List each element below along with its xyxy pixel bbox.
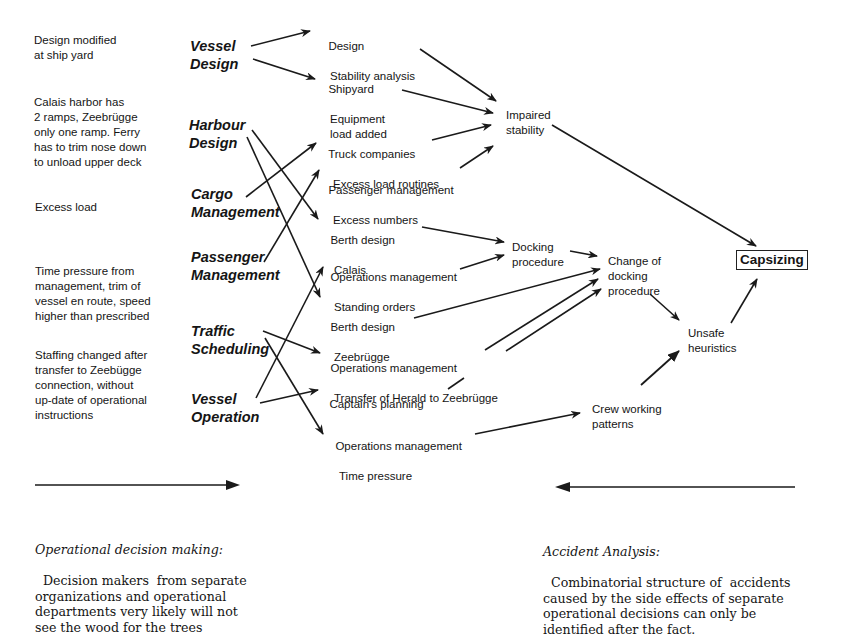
actor-vessel-operation: Vessel Operation	[191, 390, 259, 426]
decision-title: Berth design	[330, 321, 395, 333]
caption-title: Accident Analysis:	[543, 544, 791, 560]
cause-harbor-ramps: Calais harbor has 2 ramps, Zeebrügge onl…	[34, 95, 147, 170]
decision-sub: Time pressure	[329, 469, 462, 484]
decision-title: Berth design	[330, 234, 395, 246]
cause-time-pressure: Time pressure from management, trim of v…	[35, 264, 151, 324]
caption-body: Combinatorial structure of accidents cau…	[543, 575, 791, 637]
decision-title: Captain's planning	[329, 398, 423, 410]
decision-title: Passenger management	[328, 184, 453, 196]
caption-operational-decision-making: Operational decision making: Decision ma…	[35, 511, 247, 635]
decision-title: Design	[328, 40, 364, 52]
effect-unsafe-heuristics: Unsafe heuristics	[688, 326, 737, 356]
actor-cargo-management: Cargo Management	[191, 185, 280, 221]
decision-title: Operations management	[330, 362, 457, 374]
caption-title: Operational decision making:	[35, 542, 247, 558]
caption-body: Decision makers from separate organizati…	[35, 573, 247, 635]
cause-staffing-changed: Staffing changed after transfer to Zeebü…	[35, 348, 147, 423]
effect-impaired-stability: Impaired stability	[506, 108, 551, 138]
decision-title: Operations management	[335, 440, 462, 452]
effect-change-docking-procedure: Change of docking procedure	[608, 254, 661, 299]
caption-accident-analysis: Accident Analysis: Combinatorial structu…	[543, 513, 791, 637]
actor-vessel-design: Vessel Design	[190, 37, 238, 73]
decision-title: Shipyard	[328, 83, 373, 95]
decision-title: Operations management	[330, 271, 457, 283]
decision-captains-planning: Captain's planning	[323, 382, 424, 412]
actor-harbour-design: Harbour Design	[189, 116, 245, 152]
outcome-capsizing: Capsizing	[736, 250, 808, 270]
decision-ops-time-pressure: Operations management Time pressure	[329, 424, 462, 499]
cause-excess-load: Excess load	[35, 200, 97, 215]
effect-crew-working-patterns: Crew working patterns	[592, 402, 662, 432]
actor-passenger-management: Passenger Management	[191, 248, 280, 284]
effect-docking-procedure: Docking procedure	[512, 240, 564, 270]
decision-title: Truck companies	[328, 148, 415, 160]
cause-design-modified: Design modified at ship yard	[34, 33, 116, 63]
actor-traffic-scheduling: Traffic Scheduling	[191, 322, 269, 358]
